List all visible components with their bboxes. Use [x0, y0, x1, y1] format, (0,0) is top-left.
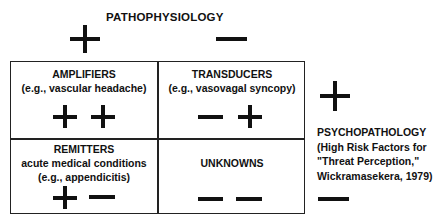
cell-example: (e.g., vascular headache): [11, 81, 157, 95]
psychopathology-subtitle-line: (High Risk Factors for: [317, 140, 433, 155]
cell-title: UNKNOWNS: [159, 156, 305, 170]
cell-title: REMITTERS: [11, 142, 157, 156]
cell-unknowns: UNKNOWNS: [159, 156, 305, 170]
cell-example: (e.g., appendicitis): [11, 170, 157, 184]
cell-remitters: REMITTERS acute medical conditions (e.g.…: [11, 142, 157, 184]
cell-description: acute medical conditions: [11, 156, 157, 170]
horizontal-divider: [11, 138, 304, 140]
psychopathology-subtitle-line: "Threat Perception,": [317, 154, 433, 169]
cell-transducers: TRANSDUCERS (e.g., vasovagal syncopy): [159, 67, 305, 95]
psychopathology-title: PSYCHOPATHOLOGY: [317, 125, 433, 140]
unknowns-minus-icon: [236, 197, 262, 201]
psychopathology-minus-icon: [318, 197, 349, 201]
cell-amplifiers: AMPLIFIERS (e.g., vascular headache): [11, 67, 157, 95]
psychopathology-plus-icon: [320, 81, 350, 111]
cell-example: (e.g., vasovagal syncopy): [159, 81, 305, 95]
psychopathology-label: PSYCHOPATHOLOGY (High Risk Factors for "…: [317, 125, 433, 183]
transducers-plus-icon: [238, 105, 262, 128]
unknowns-minus-icon: [198, 197, 223, 201]
psychopathology-citation: Wickramasekera, 1979): [317, 169, 433, 184]
amplifiers-plus-icon: [91, 105, 115, 128]
pathophysiology-minus-icon: [216, 37, 247, 41]
pathophysiology-label: PATHOPHYSIOLOGY: [106, 11, 224, 23]
remitters-plus-icon: [53, 186, 77, 209]
transducers-minus-icon: [198, 115, 223, 119]
cell-title: TRANSDUCERS: [159, 67, 305, 81]
pathophysiology-plus-icon: [70, 25, 100, 53]
remitters-minus-icon: [89, 195, 115, 199]
amplifiers-plus-icon: [53, 105, 77, 128]
cell-title: AMPLIFIERS: [11, 67, 157, 81]
